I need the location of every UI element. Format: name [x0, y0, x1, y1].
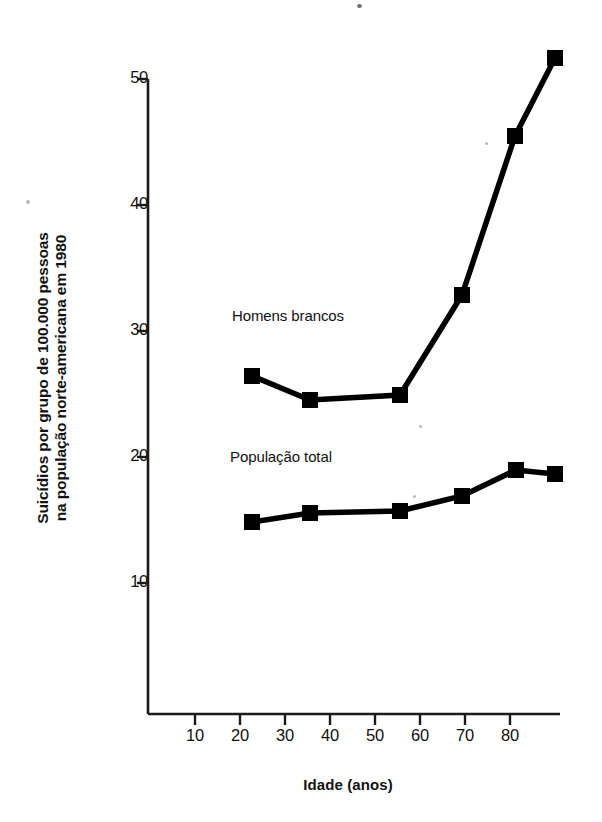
plot-area: [0, 0, 602, 822]
data-point-marker: [547, 466, 563, 482]
series-homens-brancos: [244, 50, 563, 408]
y-axis-ticks: [137, 79, 148, 583]
series-populacao-total: [244, 462, 563, 530]
scan-artifact: [419, 425, 422, 428]
data-point-marker: [392, 503, 408, 519]
x-axis-ticks: [195, 714, 510, 725]
scan-artifact: [485, 142, 488, 145]
scan-artifact: [413, 495, 416, 498]
data-point-marker: [508, 462, 524, 478]
data-point-marker: [244, 514, 260, 530]
data-point-marker: [244, 368, 260, 384]
suicide-rate-line-chart: Suicídios por grupo de 100.000 pessoas n…: [0, 0, 602, 822]
data-point-marker: [302, 505, 318, 521]
data-point-marker: [547, 50, 563, 66]
data-point-marker: [392, 387, 408, 403]
data-point-marker: [454, 287, 470, 303]
scan-artifact: [26, 200, 30, 204]
scan-artifact: [357, 4, 362, 8]
data-point-marker: [302, 392, 318, 408]
x-axis-title: Idade (anos): [148, 776, 548, 793]
series-homens-brancos-line: [252, 58, 555, 400]
data-point-marker: [454, 488, 470, 504]
data-point-marker: [507, 128, 523, 144]
